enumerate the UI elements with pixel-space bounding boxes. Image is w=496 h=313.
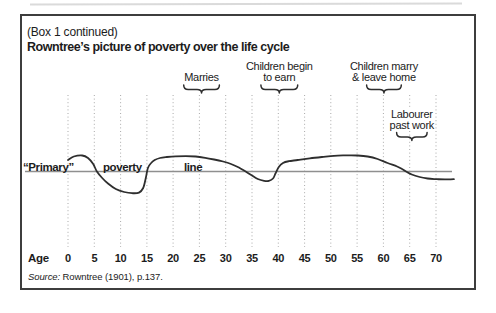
x-tick-label-50: 50 (325, 252, 337, 264)
annotation-line: & leave home (350, 72, 418, 83)
x-tick-label-25: 25 (194, 252, 206, 264)
annotation-label-3: Labourerpast work (389, 109, 435, 131)
line-word-label: line (184, 161, 202, 173)
x-tick-label-55: 55 (351, 252, 363, 264)
annotation-label-1: Children beginto earn (245, 61, 314, 83)
x-tick-label-65: 65 (404, 252, 416, 264)
x-tick-label-20: 20 (167, 252, 179, 264)
life-cycle-chart (20, 14, 476, 290)
x-tick-label-30: 30 (220, 252, 232, 264)
x-tick-label-35: 35 (246, 252, 258, 264)
annotation-brace-1 (261, 85, 298, 93)
x-tick-label-60: 60 (378, 252, 390, 264)
annotation-label-2: Children marry& leave home (349, 61, 419, 83)
source-prefix: Source: (28, 271, 60, 282)
source-citation: Rowntree (1901), p.137. (60, 271, 163, 282)
annotation-brace-3 (397, 133, 428, 141)
scan-artifact-line (30, 2, 462, 5)
annotation-line: past work (390, 120, 434, 131)
annotation-line: to earn (246, 72, 313, 83)
annotation-brace-0 (184, 85, 220, 93)
x-tick-label-5: 5 (91, 252, 97, 264)
annotation-line: Marries (184, 72, 219, 83)
x-tick-label-10: 10 (115, 252, 127, 264)
poverty-word-label: poverty (103, 161, 142, 173)
x-tick-label-15: 15 (141, 252, 153, 264)
primary-word-label: “Primary” (23, 161, 74, 173)
x-tick-label-40: 40 (272, 252, 284, 264)
x-tick-label-0: 0 (65, 252, 71, 264)
annotation-brace-2 (367, 85, 402, 93)
x-tick-label-70: 70 (430, 252, 442, 264)
figure-box: (Box 1 continued) Rowntree’s picture of … (20, 14, 476, 290)
x-tick-label-45: 45 (299, 252, 311, 264)
source-note: Source: Rowntree (1901), p.137. (28, 271, 163, 282)
annotation-label-0: Marries (183, 72, 220, 83)
x-axis-title: Age (28, 252, 49, 264)
